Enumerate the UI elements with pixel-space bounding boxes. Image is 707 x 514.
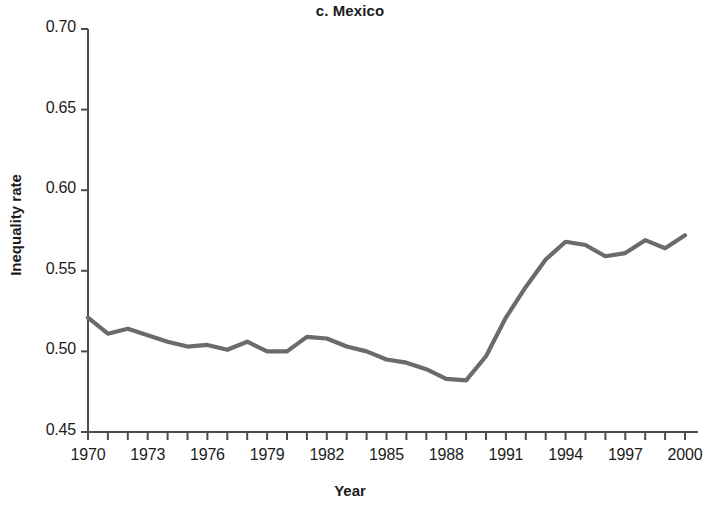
x-axis-tick-label: 1991 (474, 446, 538, 464)
y-axis-tick-label: 0.65 (20, 99, 76, 117)
y-axis-tick-label: 0.60 (20, 179, 76, 197)
y-axis-tick-label: 0.45 (20, 421, 76, 439)
axis-ticks (81, 29, 685, 440)
x-axis-tick-label: 1982 (295, 446, 359, 464)
x-axis-tick-label: 1979 (235, 446, 299, 464)
y-axis-tick-label: 0.55 (20, 260, 76, 278)
y-axis-tick-label: 0.70 (20, 18, 76, 36)
y-axis-tick-label: 0.50 (20, 340, 76, 358)
x-axis-tick-label: 2000 (653, 446, 707, 464)
x-axis-tick-label: 1976 (175, 446, 239, 464)
x-axis-tick-label: 1997 (593, 446, 657, 464)
x-axis-tick-label: 1985 (355, 446, 419, 464)
x-axis-tick-label: 1973 (116, 446, 180, 464)
data-series-line (88, 235, 685, 380)
axes (88, 29, 698, 432)
x-axis-tick-label: 1994 (534, 446, 598, 464)
x-axis-tick-label: 1988 (414, 446, 478, 464)
x-axis-tick-label: 1970 (56, 446, 120, 464)
